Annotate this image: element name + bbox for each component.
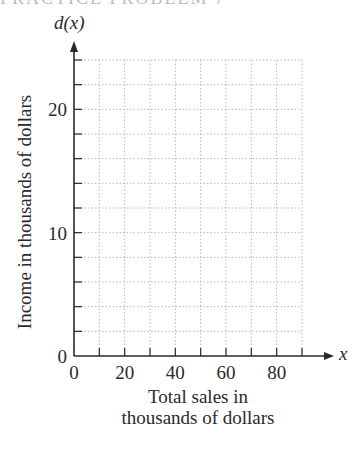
x-tick-label: 20 <box>115 362 134 383</box>
x-axis-title: Total sales in thousands of dollars <box>78 386 318 428</box>
x-tick-label: 60 <box>217 362 236 383</box>
x-axis-title-line-1: Total sales in <box>78 386 318 407</box>
grid-lines <box>74 60 302 356</box>
y-tick-label: 20 <box>48 99 67 120</box>
y-axis-arrow-icon <box>70 41 78 52</box>
y-tick-label: 0 <box>58 346 68 367</box>
x-tick-label: 40 <box>166 362 185 383</box>
x-axis-variable-label: x <box>339 343 347 365</box>
axes <box>70 41 334 360</box>
chart-canvas: 02040608001020 <box>0 0 364 451</box>
x-axis-title-line-2: thousands of dollars <box>78 407 318 428</box>
x-tick-label: 0 <box>69 362 79 383</box>
x-axis-arrow-icon <box>324 352 334 360</box>
x-tick-label: 80 <box>267 362 286 383</box>
y-axis-title: Income in thousands of dollars <box>14 95 36 329</box>
y-axis-function-label: d(x) <box>54 12 85 34</box>
tick-labels: 02040608001020 <box>48 99 286 383</box>
y-tick-label: 10 <box>48 223 67 244</box>
